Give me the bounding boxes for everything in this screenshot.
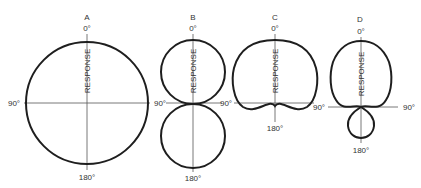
panel-d-right-angle: 90° [403,103,415,112]
panel-b: B 0° 90° 180° RESPONSE [154,13,225,183]
panel-d-bottom-angle: 180° [353,146,370,155]
panel-a-response-label: RESPONSE [83,49,92,93]
panel-a-bottom-angle: 180° [79,173,96,182]
panel-a-left-angle: 90° [8,99,20,108]
panel-a-top-angle: 0° [83,24,91,33]
panel-d-response-label: RESPONSE [357,52,366,96]
panel-a-label: A [84,13,90,22]
panel-a: A 0° 90° 180° RESPONSE [8,13,150,182]
panel-c-left-angle: 90° [220,99,232,108]
panel-d-left-angle: 90° [313,103,325,112]
panel-c: C 0° 90° 180° RESPONSE [220,13,317,133]
panel-b-label: B [190,13,195,22]
panel-c-response-label: RESPONSE [271,49,280,93]
panel-b-bottom-angle: 180° [185,174,202,183]
panel-c-bottom-angle: 180° [267,124,284,133]
panel-d: D 0° 90° 90° 180° RESPONSE [313,15,415,155]
panel-b-left-angle: 90° [154,99,166,108]
panel-d-top-angle: 0° [357,27,365,36]
panel-b-response-label: RESPONSE [189,49,198,93]
panel-c-label: C [272,13,278,22]
polar-patterns-diagram: A 0° 90° 180° RESPONSE B 0° 90° 180° RES… [0,0,421,188]
panel-d-label: D [357,15,363,24]
panel-b-top-angle: 0° [189,24,197,33]
panel-c-top-angle: 0° [271,24,279,33]
